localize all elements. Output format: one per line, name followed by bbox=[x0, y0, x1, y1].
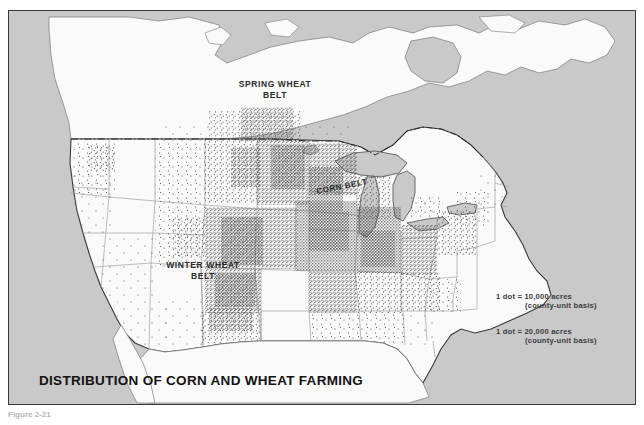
legend-basis: (county-unit basis) bbox=[525, 301, 597, 310]
map-frame: SPRING WHEAT BELT CORN BELT WINTER WHEAT… bbox=[8, 10, 636, 405]
legend-basis: (county-unit basis) bbox=[525, 336, 597, 345]
legend-value: 1 dot = 10,000 acres bbox=[496, 292, 597, 301]
figure-caption: Figure 2-21 bbox=[8, 410, 51, 419]
legend-entry: 1 dot = 10,000 acres (county-unit basis) bbox=[496, 292, 597, 310]
figure-container: SPRING WHEAT BELT CORN BELT WINTER WHEAT… bbox=[0, 0, 644, 425]
map-legend: 1 dot = 10,000 acres (county-unit basis)… bbox=[496, 292, 597, 362]
map-title: DISTRIBUTION OF CORN AND WHEAT FARMING bbox=[39, 373, 363, 388]
legend-entry: 1 dot = 20,000 acres (county-unit basis) bbox=[496, 327, 597, 345]
legend-value: 1 dot = 20,000 acres bbox=[496, 327, 597, 336]
